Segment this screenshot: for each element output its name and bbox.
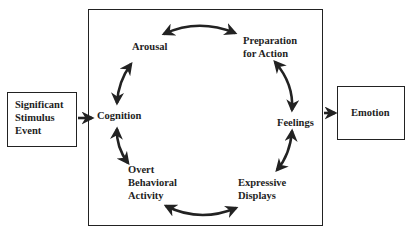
cognition-arousal-arrow [117, 64, 131, 103]
expressive-overt-arrow [166, 206, 236, 215]
feelings-expressive-arrow [277, 131, 292, 170]
preparation-feelings-arrow [275, 62, 292, 110]
arrows-layer [0, 0, 412, 233]
arousal-preparation-arrow [164, 26, 235, 34]
overt-cognition-arrow [117, 129, 128, 163]
